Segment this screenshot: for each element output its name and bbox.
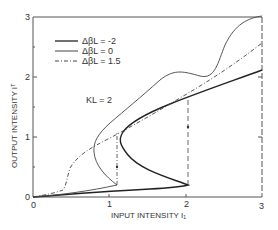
chart: 0 1 2 3 0 1 2 3 INPUT INTENSITY I₁ OUTPU… <box>0 0 278 230</box>
y-tick-1: 1 <box>25 132 30 142</box>
x-axis-label: INPUT INTENSITY I₁ <box>111 211 186 220</box>
legend: ΔβL = -2 ΔβL = 0 ΔβL = 1.5 <box>55 36 121 66</box>
switching-dot-dashed <box>187 126 189 128</box>
series-dbl-minus2 <box>33 70 262 197</box>
axis-ticks <box>33 47 262 197</box>
y-axis-label: OUTPUT INTENSITY Iᵀ <box>10 83 19 168</box>
x-tick-3: 3 <box>259 201 264 211</box>
legend-label-2: ΔβL = 0 <box>82 46 113 56</box>
x-tick-2: 2 <box>184 199 189 209</box>
x-tick-0: 0 <box>31 200 36 210</box>
kl-annotation: KL = 2 <box>86 95 112 105</box>
legend-label-3: ΔβL = 1.5 <box>82 56 121 66</box>
series-dbl-1p5 <box>33 43 262 197</box>
y-tick-0: 0 <box>25 192 30 202</box>
switching-dot-dash-dot <box>116 166 118 168</box>
x-tick-1: 1 <box>107 199 112 209</box>
y-tick-2: 2 <box>25 72 30 82</box>
legend-label-1: ΔβL = -2 <box>82 36 116 46</box>
y-tick-3: 3 <box>25 12 30 22</box>
